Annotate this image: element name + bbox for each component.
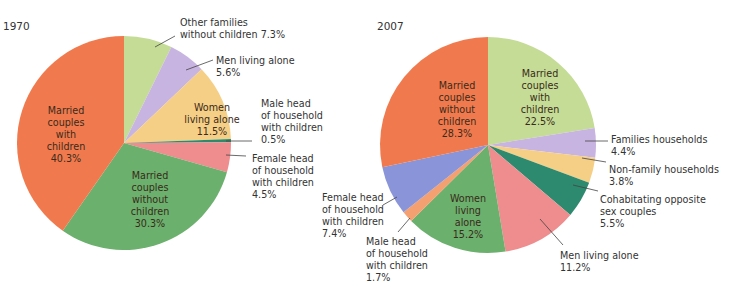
- label-text: Families households: [611, 134, 707, 146]
- label-married-without-1970: Married couples without children 30.3%: [110, 170, 190, 230]
- label-text: Female head: [322, 192, 384, 204]
- label-text: with: [26, 129, 106, 141]
- label-text: Married: [417, 80, 497, 92]
- label-text: 15.2%: [438, 229, 498, 241]
- label-text: Cohabitating opposite: [600, 194, 706, 206]
- label-text: sex couples: [600, 206, 706, 218]
- label-text: couples: [417, 92, 497, 104]
- label-text: Married: [26, 105, 106, 117]
- label-married-with-1970: Married couples with children 40.3%: [26, 105, 106, 165]
- chart-title-2007: 2007: [377, 20, 404, 32]
- label-women-alone-2007: Women living alone 15.2%: [438, 193, 498, 241]
- label-text: 22.5%: [500, 116, 580, 128]
- label-cohab-2007: Cohabitating opposite sex couples 5.5%: [600, 194, 706, 230]
- label-text: Male head: [261, 98, 323, 110]
- label-text: 5.5%: [600, 218, 706, 230]
- label-text: Other families: [180, 17, 285, 29]
- label-text: 1.7%: [366, 272, 428, 284]
- label-text: without: [417, 104, 497, 116]
- label-text: of household: [366, 248, 428, 260]
- label-text: 11.5%: [162, 126, 262, 138]
- label-text: 0.5%: [261, 134, 323, 146]
- label-text: Women: [438, 193, 498, 205]
- label-text: 40.3%: [26, 153, 106, 165]
- label-married-with-2007: Married couples with children 22.5%: [500, 68, 580, 128]
- label-text: children: [110, 206, 190, 218]
- label-text: couples: [500, 80, 580, 92]
- label-text: with children: [261, 122, 323, 134]
- label-text: 30.3%: [110, 218, 190, 230]
- label-text: 3.8%: [609, 176, 719, 188]
- label-text: Married: [110, 170, 190, 182]
- label-text: with children: [366, 260, 428, 272]
- label-text: Women: [162, 102, 262, 114]
- label-text: 4.5%: [252, 189, 314, 201]
- label-families-2007: Families households 4.4%: [611, 134, 707, 158]
- label-text: of household: [322, 204, 384, 216]
- label-text: living: [438, 205, 498, 217]
- label-text: 4.4%: [611, 146, 707, 158]
- label-text: couples: [110, 182, 190, 194]
- label-text: children: [417, 116, 497, 128]
- label-female-head-2007: Female head of household with children 7…: [322, 192, 384, 240]
- label-text: 7.4%: [322, 228, 384, 240]
- label-text: 28.3%: [417, 128, 497, 140]
- label-male-head-1970: Male head of household with children 0.5…: [261, 98, 323, 146]
- label-text: 5.6%: [216, 67, 295, 79]
- label-text: alone: [438, 217, 498, 229]
- leader-line-female-head-2007: [383, 197, 397, 205]
- label-text: children: [26, 141, 106, 153]
- label-text: Men living alone: [216, 55, 295, 67]
- label-text: of household: [261, 110, 323, 122]
- label-other-families-1970: Other families without children 7.3%: [180, 17, 285, 41]
- label-text: with: [500, 92, 580, 104]
- leader-line-male-head-2007: [398, 218, 410, 232]
- label-text: Non-family households: [609, 164, 719, 176]
- label-text: without children 7.3%: [180, 29, 285, 41]
- label-text: Men living alone: [560, 250, 639, 262]
- label-text: couples: [26, 117, 106, 129]
- label-text: Married: [500, 68, 580, 80]
- label-text: children: [500, 104, 580, 116]
- label-married-without-2007: Married couples without children 28.3%: [417, 80, 497, 140]
- label-text: 11.2%: [560, 262, 639, 274]
- label-male-head-2007: Male head of household with children 1.7…: [366, 236, 428, 284]
- label-men-alone-1970: Men living alone 5.6%: [216, 55, 295, 79]
- chart-title-1970: 1970: [3, 20, 30, 32]
- label-men-alone-2007: Men living alone 11.2%: [560, 250, 639, 274]
- label-text: living alone: [162, 114, 262, 126]
- label-text: Female head: [252, 153, 314, 165]
- label-text: with children: [252, 177, 314, 189]
- label-women-alone-1970: Women living alone 11.5%: [162, 102, 262, 138]
- label-text: without: [110, 194, 190, 206]
- label-nonfamily-2007: Non-family households 3.8%: [609, 164, 719, 188]
- label-female-head-1970: Female head of household with children 4…: [252, 153, 314, 201]
- label-text: with children: [322, 216, 384, 228]
- label-text: of household: [252, 165, 314, 177]
